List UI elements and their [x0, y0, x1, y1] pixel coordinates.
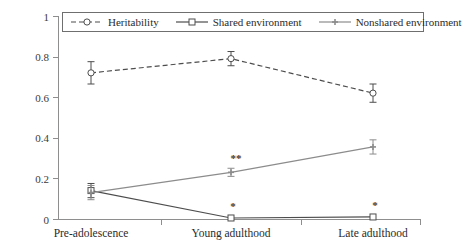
data-point-marker	[189, 19, 195, 25]
legend-swatch-small-cross	[318, 17, 352, 27]
legend-swatch-open-circle	[70, 17, 104, 27]
legend-entry[interactable]: Nonshared environment	[318, 17, 462, 28]
data-point-marker	[370, 90, 376, 96]
legend-label: Shared environment	[213, 17, 302, 28]
data-point-marker	[84, 19, 90, 25]
legend-entry[interactable]: Shared environment	[175, 17, 302, 28]
data-point-marker	[370, 144, 376, 150]
chart-legend: HeritabilityShared environmentNonshared …	[62, 12, 424, 32]
series-nonshared-environment	[88, 140, 377, 200]
legend-label: Nonshared environment	[356, 17, 462, 28]
legend-entry[interactable]: Heritability	[70, 17, 159, 28]
data-point-marker	[332, 19, 338, 25]
significance-marker: *	[372, 200, 378, 211]
significance-marker: *	[230, 201, 236, 212]
series-line	[91, 59, 373, 94]
legend-label: Heritability	[108, 17, 159, 28]
data-point-marker	[228, 215, 234, 221]
data-point-marker	[88, 70, 94, 76]
data-point-marker	[228, 169, 234, 175]
series-heritability	[88, 52, 377, 103]
significance-marker: **	[231, 153, 242, 164]
data-point-marker	[228, 56, 234, 62]
data-point-marker	[370, 214, 376, 220]
legend-swatch-open-square	[175, 17, 209, 27]
